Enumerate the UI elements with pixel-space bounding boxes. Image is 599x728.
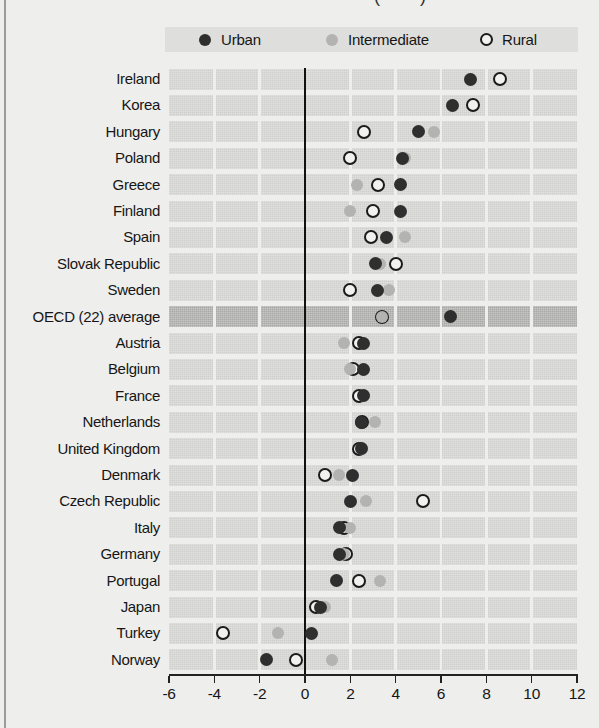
x-axis-tick	[576, 676, 578, 683]
row-band	[169, 465, 577, 486]
rural-marker	[289, 653, 303, 667]
rural-marker	[493, 72, 507, 86]
gridline-gap	[213, 68, 216, 671]
row-label: Finland	[0, 203, 160, 219]
urban-marker	[333, 548, 346, 561]
urban-marker	[380, 231, 393, 244]
row-band	[169, 385, 577, 406]
row-band	[169, 544, 577, 565]
x-axis-tick-label: -6	[147, 685, 191, 703]
zero-line	[304, 68, 306, 674]
urban-marker	[314, 601, 327, 614]
row-band	[169, 491, 577, 512]
row-label: Korea	[0, 97, 160, 113]
row-label: Netherlands	[0, 414, 160, 430]
gridline-gap	[485, 68, 488, 671]
legend-item-rural: Rural	[478, 27, 578, 52]
chart-legend: Urban Intermediate Rural	[165, 27, 578, 52]
row-band	[169, 121, 577, 142]
gridline-gap	[530, 68, 533, 671]
intermediate-marker	[374, 575, 386, 587]
row-label: Hungary	[0, 124, 160, 140]
urban-marker	[357, 337, 370, 350]
chart-title-fragment-text: ( )	[374, 0, 426, 5]
row-label: Italy	[0, 520, 160, 536]
urban-marker	[369, 257, 382, 270]
x-axis-tick	[531, 676, 533, 683]
urban-marker	[346, 469, 359, 482]
row-label: France	[0, 388, 160, 404]
legend-label-intermediate: Intermediate	[348, 31, 429, 48]
rural-marker	[371, 178, 385, 192]
x-axis-tick-label: 8	[464, 685, 508, 703]
intermediate-marker	[326, 654, 338, 666]
legend-item-urban: Urban	[165, 27, 305, 52]
x-axis-tick-label: -4	[192, 685, 236, 703]
legend-label-rural: Rural	[502, 31, 537, 48]
urban-marker	[333, 521, 346, 534]
urban-marker	[344, 495, 357, 508]
urban-marker	[446, 99, 459, 112]
row-band	[169, 438, 577, 459]
urban-marker	[394, 178, 407, 191]
chart-page: ( ) Urban Intermediate Rural IrelandKore…	[0, 0, 599, 728]
row-label: Belgium	[0, 361, 160, 377]
urban-marker	[444, 310, 457, 323]
intermediate-dot-icon	[326, 34, 338, 46]
x-axis-tick-label: 6	[419, 685, 463, 703]
row-label: Poland	[0, 150, 160, 166]
urban-marker	[394, 205, 407, 218]
gridline-gap	[258, 68, 261, 671]
row-label: Germany	[0, 546, 160, 562]
x-axis-tick-label: 0	[283, 685, 327, 703]
row-band-highlight	[169, 306, 577, 327]
intermediate-marker	[428, 126, 440, 138]
row-label: Turkey	[0, 625, 160, 641]
rural-marker	[357, 125, 371, 139]
row-band	[169, 597, 577, 618]
x-axis-tick	[304, 676, 306, 683]
row-label: Sweden	[0, 282, 160, 298]
row-label: United Kingdom	[0, 441, 160, 457]
x-axis-tick	[486, 676, 488, 683]
row-band	[169, 649, 577, 670]
gridline-gap	[440, 68, 443, 671]
row-label: Denmark	[0, 467, 160, 483]
urban-marker	[371, 284, 384, 297]
row-band	[169, 148, 577, 169]
x-axis-tick	[440, 676, 442, 683]
row-band	[169, 623, 577, 644]
x-axis-tick-label: 12	[555, 685, 599, 703]
legend-label-urban: Urban	[221, 31, 261, 48]
row-band	[169, 69, 577, 90]
intermediate-marker	[338, 337, 350, 349]
intermediate-marker	[351, 179, 363, 191]
x-axis-line	[169, 674, 578, 676]
row-band	[169, 333, 577, 354]
row-label: Spain	[0, 229, 160, 245]
urban-marker	[355, 416, 368, 429]
urban-marker	[464, 73, 477, 86]
row-label: OECD (22) average	[0, 309, 160, 325]
rural-marker	[389, 257, 403, 271]
intermediate-marker	[376, 311, 388, 323]
urban-dot-icon	[199, 34, 211, 46]
row-band	[169, 95, 577, 116]
x-axis-tick	[168, 676, 170, 683]
row-band	[169, 359, 577, 380]
row-label: Norway	[0, 652, 160, 668]
x-axis-tick	[214, 676, 216, 683]
intermediate-marker	[383, 284, 395, 296]
urban-marker	[396, 152, 409, 165]
rural-circle-icon	[480, 33, 493, 46]
x-axis-tick	[259, 676, 261, 683]
rural-marker	[352, 574, 366, 588]
x-axis-tick-label: 4	[374, 685, 418, 703]
intermediate-marker	[333, 469, 345, 481]
legend-item-intermediate: Intermediate	[305, 27, 485, 52]
x-axis-tick-label: 2	[328, 685, 372, 703]
row-label: Czech Republic	[0, 493, 160, 509]
x-axis-tick	[350, 676, 352, 683]
x-axis-tick-label: -2	[238, 685, 282, 703]
row-label: Portugal	[0, 573, 160, 589]
